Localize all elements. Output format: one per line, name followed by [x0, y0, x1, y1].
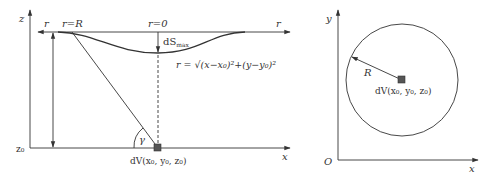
subsidence-curve	[58, 32, 245, 53]
right-panel-plan-view: y x O R dV(x₀, y₀, z₀)	[324, 10, 478, 174]
radius-label: R	[363, 67, 372, 78]
r-right-label: r	[276, 18, 282, 29]
r-equals-0-label: r=0	[148, 18, 168, 29]
max-subsidence-label: dSmax	[163, 36, 190, 48]
subsidence-diagram: z r r=R r=0 r dSmax r = √(x−x₀)²+(y−y₀)²…	[0, 0, 494, 174]
z0-label: z₀	[16, 144, 25, 154]
r-left-label: r	[44, 18, 50, 29]
source-element-label: dV(x₀, y₀, z₀)	[130, 156, 186, 166]
r-formula: r = √(x−x₀)²+(y−y₀)²	[176, 59, 276, 70]
source-element-marker	[154, 144, 161, 151]
source-element-label-plan: dV(x₀, y₀, z₀)	[375, 86, 431, 96]
radius-arrow	[352, 57, 402, 80]
y-axis-label: y	[325, 13, 332, 24]
x-axis-right-label: x	[469, 163, 475, 174]
x-axis-left-label: x	[282, 151, 288, 162]
z-axis-label: z	[18, 13, 25, 24]
left-panel-cross-section: z r r=R r=0 r dSmax r = √(x−x₀)²+(y−y₀)²…	[16, 10, 290, 166]
r-equals-R-label: r=R	[62, 18, 83, 29]
origin-label: O	[324, 156, 332, 167]
source-element-marker-plan	[398, 76, 405, 83]
gamma-label: γ	[139, 134, 145, 145]
influence-line	[72, 32, 158, 148]
